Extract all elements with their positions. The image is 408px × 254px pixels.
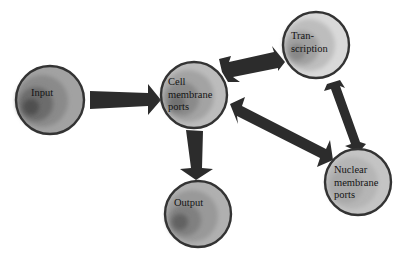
node-label-cell-membrane-ports: Cell membrane ports [168,76,212,114]
node-label-transcription: Tran- scription [291,30,328,55]
arrow-cell-membrane-transcription [219,46,285,82]
diagram-canvas [0,0,408,254]
node-input [16,66,84,134]
arrow-transcription-nuclear [324,80,366,152]
arrow-input-to-cell-membrane [90,84,161,115]
node-output [165,181,231,247]
node-label-nuclear-membrane-ports: Nuclear membrane ports [334,164,378,202]
node-label-output: Output [174,197,203,210]
node-label-input: Input [31,87,53,100]
arrow-cell-membrane-nuclear [230,97,333,167]
arrow-cell-membrane-to-output [180,130,213,180]
